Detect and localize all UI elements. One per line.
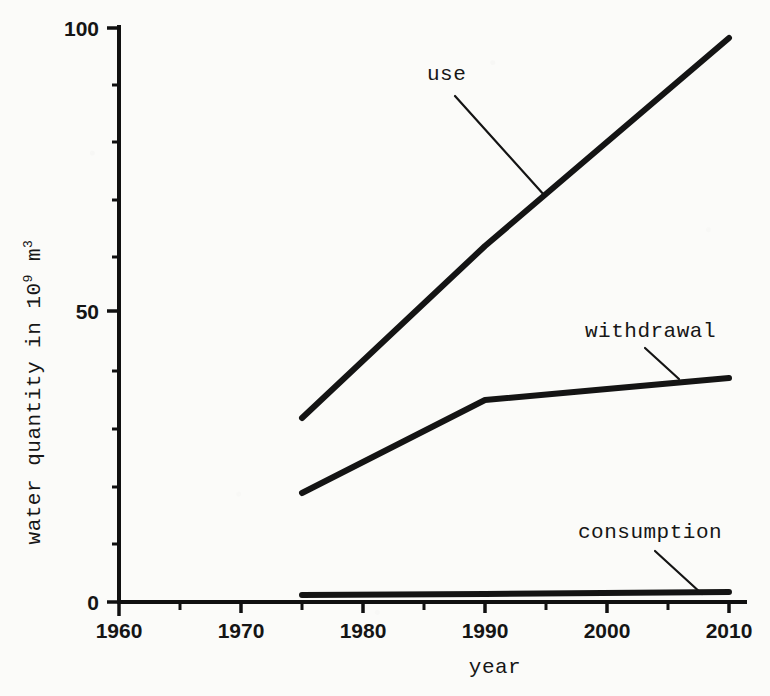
series-label-use: use (427, 63, 466, 86)
x-tick-label-1970: 1970 (218, 619, 265, 642)
y-tick-label-0: 0 (87, 591, 99, 614)
leader-line-use (455, 96, 545, 196)
chart-svg: 100 50 0 1960 1970 1980 1990 2000 2010 y… (0, 0, 770, 696)
leader-line-withdrawal (645, 348, 679, 379)
x-tick-label-2010: 2010 (706, 619, 753, 642)
series-group (302, 38, 729, 595)
series-label-withdrawal: withdrawal (585, 320, 716, 343)
annotation-leaders (455, 96, 702, 594)
y-tick-label-50: 50 (76, 300, 99, 323)
y-tick-label-100: 100 (64, 17, 99, 40)
series-line-consumption (302, 592, 729, 595)
x-tick-label-2000: 2000 (584, 619, 631, 642)
x-tick-label-1980: 1980 (340, 619, 387, 642)
series-label-consumption: consumption (578, 521, 722, 544)
y-axis-title-exponent: 9 (21, 274, 36, 282)
y-axis-title-main: water quantity in 10 (23, 282, 46, 544)
svg-text:water quantity in 109 m3: water quantity in 109 m3 (21, 240, 46, 545)
x-axis-title: year (469, 656, 521, 679)
x-tick-label-1990: 1990 (462, 619, 509, 642)
y-axis-title-group: water quantity in 109 m3 (21, 240, 46, 545)
series-line-use (302, 38, 729, 418)
chart-figure: 100 50 0 1960 1970 1980 1990 2000 2010 y… (0, 0, 770, 696)
x-tick-label-1960: 1960 (96, 619, 143, 642)
leader-line-consumption (655, 551, 702, 594)
y-axis-title-unit-exponent: 3 (21, 240, 36, 248)
series-line-withdrawal (302, 378, 729, 493)
y-axis-title-unit: m (23, 248, 46, 261)
